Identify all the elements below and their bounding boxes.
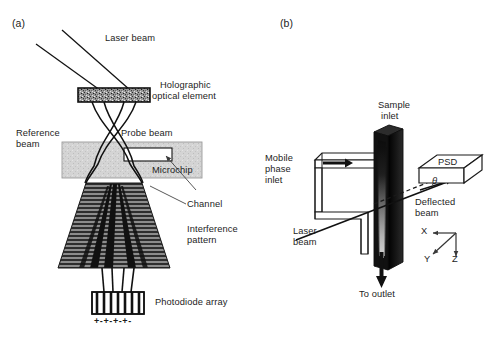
label-sample-inlet-line1: Sample: [378, 100, 410, 111]
label-laser-beam-b-line2: beam: [293, 237, 317, 248]
coordinate-axes: [433, 233, 456, 256]
label-mobile-phase-inlet-line3: inlet: [265, 175, 283, 186]
label-to-outlet: To outlet: [359, 289, 395, 300]
label-photodiode-array: Photodiode array: [155, 297, 227, 308]
label-holographic-optical-element-line2: optical element: [152, 91, 216, 102]
label-mobile-phase-inlet-line1: Mobile: [265, 153, 293, 164]
label-sample-inlet-line2: inlet: [381, 111, 399, 122]
label-axis-z: Z: [452, 254, 458, 265]
photodiode-array-shape: [92, 292, 144, 314]
label-axis-y: Y: [424, 254, 430, 265]
label-electrode-polarity: +-+-+-+-: [94, 316, 132, 327]
label-psd: PSD: [438, 157, 457, 168]
label-theta: θ: [432, 175, 437, 186]
panel-a-tag: (a): [12, 18, 25, 29]
label-holographic-optical-element-line1: Holographic: [160, 80, 211, 91]
label-probe-beam: Probe beam: [121, 128, 173, 139]
label-laser-beam-a: Laser beam: [105, 33, 155, 44]
label-mobile-phase-inlet-line2: phase: [265, 164, 291, 175]
holographic-optical-element-shape: [78, 88, 150, 102]
label-reference-beam-line1: Reference: [16, 128, 60, 139]
label-laser-beam-b-line1: Laser: [293, 226, 317, 237]
label-axis-x: X: [421, 226, 427, 237]
label-reference-beam-line2: beam: [16, 139, 40, 150]
interference-pattern-shape: [50, 183, 180, 268]
label-deflected-beam-line1: Deflected: [415, 197, 455, 208]
label-microchip: Microchip: [152, 165, 193, 176]
figure-canvas: [0, 0, 496, 340]
panel-b-tag: (b): [280, 18, 293, 29]
label-interference-pattern-line2: pattern: [187, 235, 217, 246]
figure-root: (a) Laser beam Holographic optical eleme…: [0, 0, 496, 340]
label-deflected-beam-line2: beam: [415, 208, 439, 219]
label-channel: Channel: [187, 199, 222, 210]
output-beams-a: [102, 268, 134, 292]
label-interference-pattern-line1: Interference: [187, 224, 238, 235]
channel-shape: [124, 148, 172, 161]
